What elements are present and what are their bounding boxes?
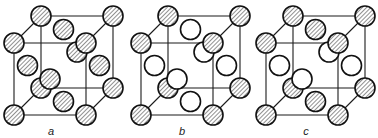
- atom-corner-back-top-left: [31, 6, 51, 26]
- panel-label-a: a: [48, 125, 54, 137]
- atom-face-bottom: [306, 92, 326, 112]
- atom-face-bottom: [181, 92, 201, 112]
- atom-corner-back-top-left: [283, 6, 303, 26]
- atom-corner-back-top-right: [230, 6, 250, 26]
- unit-cell-a: [4, 6, 123, 125]
- atom-face-right: [342, 56, 362, 76]
- atom-corner-front-top-left: [4, 33, 24, 53]
- atom-corner-back-top-right: [355, 6, 375, 26]
- atom-face-front: [292, 69, 312, 89]
- atom-corner-front-bottom-right: [76, 105, 96, 125]
- atom-corner-back-top-left: [158, 6, 178, 26]
- unit-cell-c: [256, 6, 375, 125]
- unit-cell-b: [131, 6, 250, 125]
- atom-corner-front-bottom-left: [131, 105, 151, 125]
- atom-face-front: [40, 69, 60, 89]
- atom-corner-back-bottom-right: [103, 78, 123, 98]
- panel-label-c: c: [303, 125, 309, 137]
- atom-face-front: [167, 69, 187, 89]
- atom-corner-back-top-right: [103, 6, 123, 26]
- atom-corner-front-top-left: [131, 33, 151, 53]
- atom-corner-front-bottom-right: [328, 105, 348, 125]
- atom-corner-front-bottom-left: [256, 105, 276, 125]
- atom-face-left: [18, 56, 38, 76]
- atom-corner-front-top-right: [328, 33, 348, 53]
- fcc-unit-cells-figure: a b c: [0, 0, 378, 138]
- atom-face-top: [181, 20, 201, 40]
- atom-corner-front-top-right: [76, 33, 96, 53]
- atom-face-right: [217, 56, 237, 76]
- atom-face-bottom: [54, 92, 74, 112]
- atom-corner-front-bottom-left: [4, 105, 24, 125]
- atom-face-left: [270, 56, 290, 76]
- atom-corner-front-top-right: [203, 33, 223, 53]
- atom-corner-back-bottom-right: [355, 78, 375, 98]
- panel-label-b: b: [179, 125, 185, 137]
- atom-face-top: [306, 20, 326, 40]
- atom-face-right: [90, 56, 110, 76]
- atom-corner-front-bottom-right: [203, 105, 223, 125]
- atom-corner-front-top-left: [256, 33, 276, 53]
- atom-face-top: [54, 20, 74, 40]
- atom-face-left: [145, 56, 165, 76]
- atom-corner-back-bottom-right: [230, 78, 250, 98]
